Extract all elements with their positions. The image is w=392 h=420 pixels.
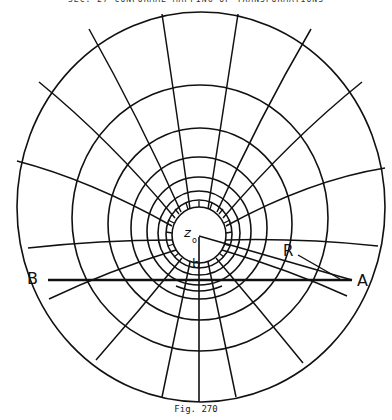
conformal-grid-diagram	[0, 0, 392, 420]
figure-caption: Fig. 270	[0, 404, 392, 414]
center-subscript: o	[192, 237, 197, 245]
center-label: z	[184, 226, 191, 239]
segment-b-label: b	[192, 257, 200, 270]
circle-family	[17, 12, 385, 402]
circle-2	[72, 85, 328, 351]
point-b-label: B	[27, 271, 38, 287]
radius-label: R	[283, 244, 293, 259]
point-a-label: A	[357, 273, 368, 289]
